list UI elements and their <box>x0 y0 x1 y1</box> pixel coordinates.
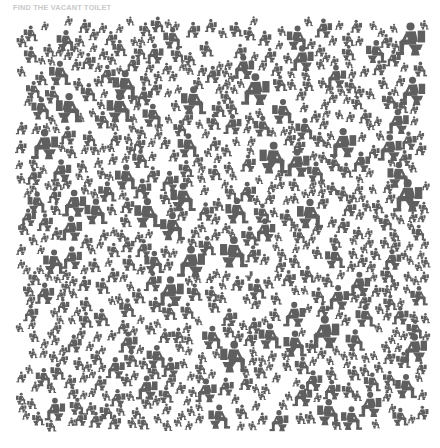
person-on-toilet-icon[interactable] <box>134 45 147 59</box>
person-on-toilet-icon[interactable] <box>38 56 46 65</box>
person-on-toilet-icon[interactable] <box>131 37 139 46</box>
person-on-toilet-icon[interactable] <box>224 60 233 70</box>
person-on-toilet-icon[interactable] <box>97 168 107 179</box>
person-on-toilet-icon[interactable] <box>45 181 53 190</box>
person-on-toilet-icon[interactable] <box>151 16 165 32</box>
person-on-toilet-icon[interactable] <box>267 182 276 193</box>
person-on-toilet-icon[interactable] <box>116 230 127 242</box>
person-on-toilet-icon[interactable] <box>249 421 257 430</box>
person-on-toilet-icon[interactable] <box>369 272 377 281</box>
person-on-toilet-icon[interactable] <box>47 330 55 339</box>
person-on-toilet-icon[interactable] <box>221 91 233 104</box>
person-on-toilet-icon[interactable] <box>324 139 332 148</box>
person-on-toilet-icon[interactable] <box>417 213 425 222</box>
person-on-toilet-icon[interactable] <box>296 413 306 424</box>
person-on-toilet-icon[interactable] <box>121 153 129 162</box>
person-on-toilet-icon[interactable] <box>342 32 354 46</box>
person-on-toilet-icon[interactable] <box>230 171 238 180</box>
person-on-toilet-icon[interactable] <box>351 96 363 110</box>
person-on-toilet-icon[interactable] <box>58 354 68 365</box>
person-on-toilet-icon[interactable] <box>171 100 181 111</box>
person-on-toilet-icon[interactable] <box>138 37 146 46</box>
person-on-toilet-icon[interactable] <box>400 131 416 149</box>
person-on-toilet-icon[interactable] <box>16 372 26 383</box>
person-on-toilet-icon[interactable] <box>397 215 405 224</box>
person-on-toilet-icon[interactable] <box>383 295 397 311</box>
person-on-toilet-icon[interactable] <box>416 131 424 140</box>
person-on-toilet-icon[interactable] <box>173 120 187 136</box>
person-on-toilet-icon[interactable] <box>248 355 257 365</box>
person-on-toilet-icon[interactable] <box>349 248 359 259</box>
person-on-toilet-icon[interactable] <box>37 265 45 274</box>
person-on-toilet-icon[interactable] <box>416 406 428 420</box>
person-on-toilet-icon[interactable] <box>161 245 172 257</box>
person-on-toilet-icon[interactable] <box>258 31 271 46</box>
person-on-toilet-icon[interactable] <box>312 287 326 303</box>
person-on-toilet-icon[interactable] <box>105 31 118 45</box>
person-on-toilet-icon[interactable] <box>78 276 91 291</box>
person-on-toilet-icon[interactable] <box>260 142 288 174</box>
person-on-toilet-icon[interactable] <box>50 363 65 380</box>
person-on-toilet-icon[interactable] <box>197 202 213 221</box>
person-on-toilet-icon[interactable] <box>292 244 300 253</box>
person-on-toilet-icon[interactable] <box>160 171 178 192</box>
person-on-toilet-icon[interactable] <box>40 339 49 349</box>
person-on-toilet-icon[interactable] <box>319 118 329 129</box>
person-on-toilet-icon[interactable] <box>400 331 408 340</box>
person-on-toilet-icon[interactable] <box>15 140 27 153</box>
person-on-toilet-icon[interactable] <box>140 73 151 86</box>
person-on-toilet-icon[interactable] <box>292 378 300 387</box>
person-on-toilet-icon[interactable] <box>285 392 293 401</box>
person-on-toilet-icon[interactable] <box>108 296 116 305</box>
person-on-toilet-icon[interactable] <box>275 259 287 272</box>
person-on-toilet-icon[interactable] <box>342 45 356 60</box>
person-on-toilet-icon[interactable] <box>71 59 81 71</box>
person-on-toilet-icon[interactable] <box>178 62 186 71</box>
person-on-toilet-icon[interactable] <box>109 227 117 236</box>
person-on-toilet-icon[interactable] <box>289 178 300 191</box>
person-on-toilet-icon[interactable] <box>419 272 429 283</box>
person-on-toilet-icon[interactable] <box>90 189 99 199</box>
person-on-toilet-icon[interactable] <box>313 393 321 402</box>
person-on-toilet-icon[interactable] <box>174 85 182 94</box>
person-on-toilet-icon[interactable] <box>73 357 85 370</box>
person-on-toilet-icon[interactable] <box>62 190 86 217</box>
person-on-toilet-icon[interactable] <box>245 245 260 262</box>
person-on-toilet-icon[interactable] <box>233 55 255 79</box>
person-on-toilet-icon[interactable] <box>260 254 270 265</box>
person-on-toilet-icon[interactable] <box>132 136 145 150</box>
person-on-toilet-icon[interactable] <box>158 328 171 343</box>
person-on-toilet-icon[interactable] <box>35 71 47 85</box>
person-on-toilet-icon[interactable] <box>283 302 305 327</box>
person-on-toilet-icon[interactable] <box>163 259 174 271</box>
person-on-toilet-icon[interactable] <box>348 366 361 381</box>
person-on-toilet-icon[interactable] <box>383 310 392 320</box>
person-on-toilet-icon[interactable] <box>66 146 77 159</box>
person-on-toilet-icon[interactable] <box>327 155 342 171</box>
person-on-toilet-icon[interactable] <box>273 75 287 91</box>
person-on-toilet-icon[interactable] <box>81 145 89 154</box>
person-on-toilet-icon[interactable] <box>188 236 198 247</box>
person-on-toilet-icon[interactable] <box>182 323 191 333</box>
person-on-toilet-icon[interactable] <box>88 29 98 41</box>
person-on-toilet-icon[interactable] <box>58 345 67 355</box>
person-on-toilet-icon[interactable] <box>29 234 39 245</box>
person-on-toilet-icon[interactable] <box>356 254 367 267</box>
person-on-toilet-icon[interactable] <box>51 203 62 216</box>
person-on-toilet-icon[interactable] <box>330 128 356 157</box>
person-on-toilet-icon[interactable] <box>370 21 378 30</box>
person-on-toilet-icon[interactable] <box>362 353 371 363</box>
person-on-toilet-icon[interactable] <box>263 276 274 288</box>
person-on-toilet-icon[interactable] <box>137 315 145 324</box>
person-on-toilet-icon[interactable] <box>64 16 72 25</box>
person-on-toilet-icon[interactable] <box>102 391 111 401</box>
person-on-toilet-icon[interactable] <box>107 143 115 152</box>
person-on-toilet-icon[interactable] <box>383 350 395 364</box>
person-on-toilet-icon[interactable] <box>289 255 301 268</box>
person-on-toilet-icon[interactable] <box>276 179 285 189</box>
person-on-toilet-icon[interactable] <box>94 308 110 326</box>
person-on-toilet-icon[interactable] <box>231 276 244 291</box>
person-on-toilet-icon[interactable] <box>374 362 384 373</box>
person-on-toilet-icon[interactable] <box>270 410 289 431</box>
person-on-toilet-icon[interactable] <box>298 328 306 337</box>
